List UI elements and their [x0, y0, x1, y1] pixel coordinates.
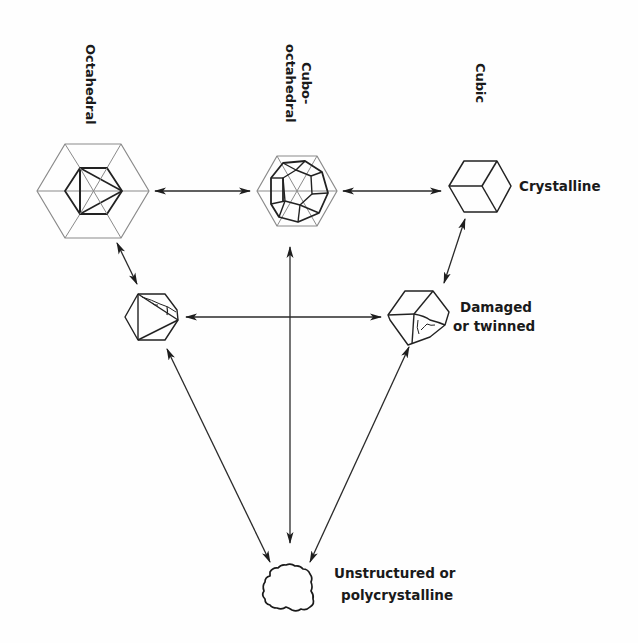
arrow-octahedral-damaged [117, 243, 137, 284]
cubo-octahedral-crystal-icon [257, 156, 337, 226]
arrows [117, 191, 465, 562]
label-octahedral: Octahedral [82, 44, 98, 125]
label-cubo-line1: Cubo- [298, 62, 314, 104]
label-damaged-line1: Damaged [460, 299, 532, 316]
label-damaged-line2: or twinned [453, 318, 535, 335]
label-crystalline: Crystalline [519, 178, 601, 195]
label-cubic: Cubic [472, 63, 488, 103]
octahedral-crystal-icon [37, 144, 149, 238]
polycrystalline-blob-icon [263, 564, 314, 611]
cubic-crystal-icon [449, 161, 511, 212]
label-cubo-line2: octahedral [282, 44, 298, 123]
arrow-cubic-damaged [444, 219, 465, 283]
arrow-damaged-octahedron-unstructured [167, 349, 270, 562]
damaged-cube-icon [388, 291, 449, 345]
diagram-canvas: Octahedral Cubo- octahedral Cubic Crysta… [0, 0, 638, 643]
arrow-damaged-cube-unstructured [310, 347, 409, 562]
label-unstructured-line2: polycrystalline [341, 587, 453, 604]
damaged-octahedron-icon [125, 294, 178, 340]
label-unstructured-line1: Unstructured or [334, 565, 456, 582]
